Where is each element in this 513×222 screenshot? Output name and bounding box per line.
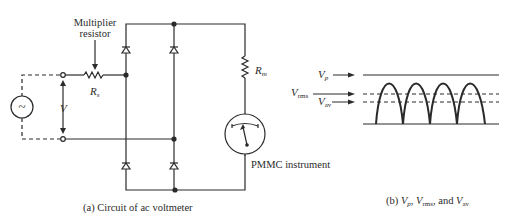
- vav-label: Vav: [318, 95, 332, 109]
- input-terminal-top: [61, 73, 66, 78]
- rs-label: Rs: [89, 85, 100, 99]
- diode-bottom-left: [122, 163, 130, 169]
- meter-scale-icon: [232, 124, 258, 127]
- diode-top-left: [122, 47, 130, 53]
- ac-voltmeter-diagram: Multiplier resistor Rs Rm V ~ PMMC instr…: [0, 0, 513, 222]
- diode-top-middle: [170, 47, 178, 53]
- voltage-arrow-down: [60, 128, 66, 134]
- multiplier-label-line1: Multiplier: [74, 17, 117, 28]
- wire-top-bridge: [126, 24, 245, 75]
- rm-label: Rm: [254, 64, 267, 78]
- input-terminal-bottom: [61, 137, 66, 142]
- waveform-caption: (b) Vp, Vrms, and Vav: [386, 195, 470, 208]
- vp-label: Vp: [318, 68, 329, 82]
- waveform-plot: [363, 75, 499, 124]
- vrms-label: Vrms: [291, 86, 309, 100]
- source-dashed-loop: [22, 75, 60, 139]
- meter-resistor: [242, 56, 248, 78]
- rectified-wave: [376, 84, 485, 125]
- multiplier-resistor: [84, 72, 103, 78]
- diode-bottom-middle: [170, 163, 178, 169]
- ac-source-icon: ~: [18, 99, 25, 114]
- junction-dots: [123, 21, 177, 192]
- instrument-label: PMMC instrument: [251, 159, 330, 170]
- voltage-label: V: [60, 102, 68, 114]
- multiplier-pointer-head: [92, 64, 98, 70]
- wire-bottom-bridge: [126, 75, 245, 190]
- meter-needle-icon: [243, 127, 247, 145]
- voltage-arrow-up: [60, 80, 66, 86]
- multiplier-label-line2: resistor: [80, 28, 111, 39]
- circuit-caption: (a) Circuit of ac voltmeter: [83, 202, 193, 214]
